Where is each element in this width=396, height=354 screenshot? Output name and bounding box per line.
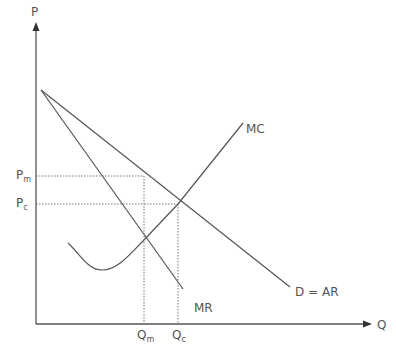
y-axis-arrow-icon: [33, 22, 40, 31]
mc-label: MC: [246, 122, 265, 136]
mr-label: MR: [194, 301, 213, 315]
pc-label: Pc: [16, 196, 28, 212]
x-axis-arrow-icon: [363, 321, 372, 328]
pm-label: Pm: [16, 168, 31, 184]
y-axis-label: P: [31, 5, 38, 19]
demand-curve: [41, 90, 290, 287]
mr-curve: [41, 90, 183, 289]
x-axis-label: Q: [377, 318, 386, 332]
qm-label: Qm: [137, 328, 154, 344]
qc-label: Qc: [172, 328, 186, 344]
mc-curve: [68, 123, 243, 270]
economics-diagram: P Q MC MR D = AR Pm Pc Qm Qc: [0, 0, 396, 354]
demand-label: D = AR: [295, 285, 338, 299]
